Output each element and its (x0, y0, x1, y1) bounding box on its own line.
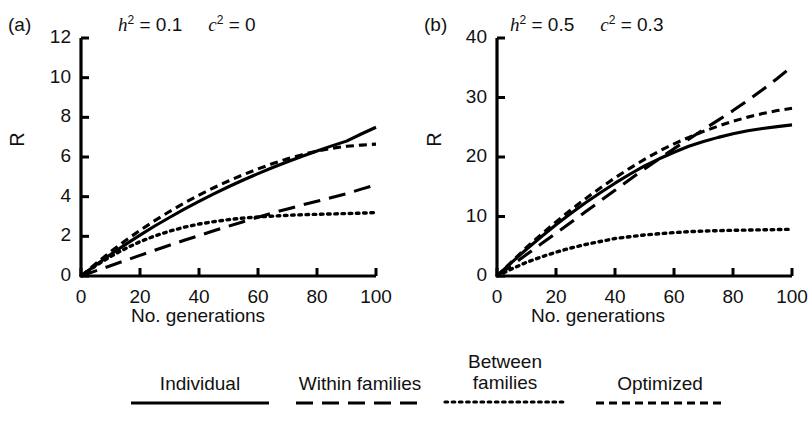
x-tick-label: 60 (228, 286, 288, 308)
legend: IndividualWithin familiesBetween familie… (0, 345, 800, 430)
y-tick-label: 2 (15, 224, 71, 246)
y-tick-label: 8 (15, 105, 71, 127)
series-line-optimized (81, 144, 376, 276)
panel-a: (a) h2 = 0.1c2 = 0 R No. generations 024… (0, 0, 400, 345)
series-line-optimized (497, 108, 792, 276)
legend-item-optimized: Optimized (575, 373, 745, 408)
series-line-individual (81, 127, 376, 276)
legend-label: Individual (120, 373, 280, 394)
x-tick-label: 80 (703, 286, 763, 308)
y-tick-label: 10 (15, 66, 71, 88)
y-tick-label: 30 (431, 86, 487, 108)
panel-b-x-axis-label: No. generations (498, 305, 698, 327)
y-tick-label: 0 (431, 264, 487, 286)
y-tick-label: 6 (15, 145, 71, 167)
y-tick-label: 4 (15, 185, 71, 207)
series-line-individual (497, 125, 792, 276)
legend-label: Within families (270, 373, 450, 394)
y-tick-label: 12 (15, 26, 71, 48)
legend-item-between-families: Between families (430, 351, 580, 407)
legend-swatch-long-dash (270, 398, 450, 408)
panel-b: (b) h2 = 0.5c2 = 0.3 R No. generations 0… (400, 0, 800, 345)
x-tick-label: 20 (526, 286, 586, 308)
x-tick-label: 0 (51, 286, 111, 308)
legend-item-within-families: Within families (270, 373, 450, 408)
legend-label: Optimized (575, 373, 745, 394)
panel-a-x-axis-label: No. generations (98, 305, 298, 327)
x-tick-label: 40 (585, 286, 645, 308)
x-tick-label: 60 (644, 286, 704, 308)
x-tick-label: 0 (467, 286, 527, 308)
x-tick-label: 20 (110, 286, 170, 308)
x-tick-label: 40 (169, 286, 229, 308)
x-tick-label: 100 (762, 286, 812, 308)
legend-item-individual: Individual (120, 373, 280, 408)
legend-label: Between families (430, 351, 580, 393)
legend-swatch-dotted (430, 397, 580, 407)
y-tick-label: 40 (431, 26, 487, 48)
x-tick-label: 80 (287, 286, 347, 308)
y-tick-label: 0 (15, 264, 71, 286)
y-tick-label: 10 (431, 205, 487, 227)
x-tick-label: 100 (346, 286, 406, 308)
legend-swatch-short-dash (575, 398, 745, 408)
series-line-within-families (497, 67, 792, 276)
series-line-within-families (81, 185, 376, 276)
legend-swatch-solid (120, 398, 280, 408)
y-tick-label: 20 (431, 145, 487, 167)
